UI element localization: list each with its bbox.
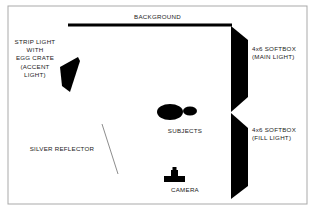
softbox-main-light (231, 26, 248, 112)
camera-icon (164, 167, 185, 182)
label-subjects: SUBJECTS (140, 127, 230, 135)
label-softbox-fill-light: 4x6 SOFTBOX (FILL LIGHT) (252, 126, 312, 142)
label-silver-reflector: SILVER REFLECTOR (8, 145, 116, 153)
camera-body (164, 176, 185, 182)
subject-primary (157, 104, 183, 120)
softbox-fill-light (231, 113, 248, 199)
diagram-frame (8, 6, 307, 204)
camera-hot-shoe (173, 167, 177, 170)
subject-secondary (183, 107, 197, 116)
camera-lens (171, 170, 178, 176)
label-softbox-main-light: 4x6 SOFTBOX (MAIN LIGHT) (252, 45, 312, 61)
diagram-canvas (0, 0, 315, 210)
label-strip-light: STRIP LIGHT WITH EGG CRATE (ACCENT LIGHT… (4, 38, 66, 79)
label-background: BACKGROUND (0, 13, 315, 21)
label-camera: CAMERA (140, 186, 230, 194)
lighting-diagram: BACKGROUND STRIP LIGHT WITH EGG CRATE (A… (0, 0, 315, 210)
